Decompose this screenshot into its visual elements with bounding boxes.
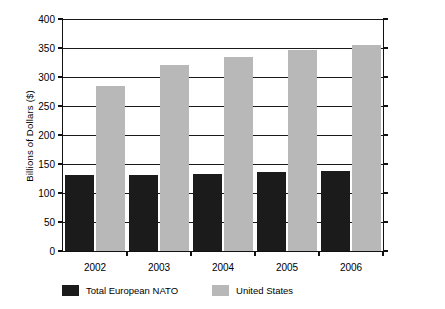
y-tick-right-50 (383, 221, 388, 222)
y-tick-label-350: 350 (38, 43, 55, 54)
legend-swatch-icon-united-states (212, 285, 229, 296)
bar-2004-total-european-nato (193, 174, 222, 251)
y-tick-0 (58, 250, 63, 251)
gridline-350 (63, 48, 383, 49)
y-tick-label-300: 300 (38, 72, 55, 83)
y-tick-350 (58, 47, 63, 48)
gridline-400 (63, 19, 383, 20)
bar-2006-total-european-nato (321, 171, 350, 251)
x-tick-label-2005: 2005 (276, 262, 298, 273)
x-tick-2004 (254, 251, 255, 256)
legend-label-0: Total European NATO (86, 285, 178, 296)
y-tick-50 (58, 221, 63, 222)
x-tick-2006 (382, 251, 383, 256)
y-tick-right-150 (383, 163, 388, 164)
bar-2006-united-states (352, 45, 381, 251)
y-tick-300 (58, 76, 63, 77)
legend-label-1: United States (236, 285, 293, 296)
y-tick-right-0 (383, 250, 388, 251)
y-tick-label-150: 150 (38, 159, 55, 170)
y-tick-label-50: 50 (44, 217, 55, 228)
y-tick-label-100: 100 (38, 188, 55, 199)
y-tick-right-350 (383, 47, 388, 48)
bar-2003-united-states (160, 65, 189, 251)
legend-entry-1: United States (212, 285, 293, 296)
bar-2004-united-states (224, 57, 253, 251)
y-tick-right-200 (383, 134, 388, 135)
plot-area: 050100150200250300350400 200220032004200… (62, 19, 384, 252)
gridline-300 (63, 77, 383, 78)
y-tick-label-400: 400 (38, 14, 55, 25)
legend-entry-0: Total European NATO (62, 285, 178, 296)
y-tick-right-100 (383, 192, 388, 193)
x-tick-label-2006: 2006 (340, 262, 362, 273)
bar-2002-united-states (96, 86, 125, 251)
bar-2003-total-european-nato (129, 175, 158, 251)
y-tick-right-250 (383, 105, 388, 106)
chart-legend: Total European NATO United States (62, 282, 384, 298)
x-tick-label-2004: 2004 (212, 262, 234, 273)
y-axis-label: Billions of Dollars ($) (18, 20, 40, 252)
y-tick-label-0: 0 (49, 246, 55, 257)
y-tick-right-400 (383, 18, 388, 19)
x-tick-label-2003: 2003 (148, 262, 170, 273)
y-tick-100 (58, 192, 63, 193)
x-tick-2003 (190, 251, 191, 256)
x-tick-label-2002: 2002 (84, 262, 106, 273)
y-tick-200 (58, 134, 63, 135)
y-tick-label-250: 250 (38, 101, 55, 112)
y-tick-right-300 (383, 76, 388, 77)
bar-2005-total-european-nato (257, 172, 286, 251)
y-tick-label-200: 200 (38, 130, 55, 141)
y-tick-150 (58, 163, 63, 164)
y-tick-250 (58, 105, 63, 106)
bar-2002-total-european-nato (65, 175, 94, 251)
x-tick-2005 (318, 251, 319, 256)
x-tick-2002 (126, 251, 127, 256)
y-axis-label-container: Billions of Dollars ($) (10, 20, 32, 252)
y-tick-400 (58, 18, 63, 19)
chart-figure: Billions of Dollars ($) 0501001502002503… (0, 0, 445, 309)
legend-swatch-icon-total-european-nato (62, 285, 79, 296)
bar-2005-united-states (288, 50, 317, 251)
